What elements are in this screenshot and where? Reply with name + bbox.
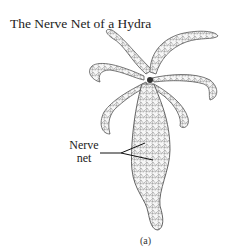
- nerve-net-label: Nerve net: [66, 139, 102, 165]
- nerve-net-label-line2: net: [66, 152, 102, 165]
- hydra-illustration: [0, 0, 231, 250]
- figure-caption: (a): [140, 235, 151, 246]
- hypostome: [147, 77, 153, 83]
